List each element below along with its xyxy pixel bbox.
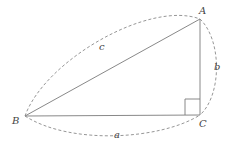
- side-a-line: [25, 115, 200, 116]
- side-label-c: c: [99, 41, 105, 52]
- vertex-label-b: B: [11, 115, 19, 126]
- right-angle-marker: [185, 99, 200, 115]
- triangle-diagram: A B C c b a: [0, 0, 232, 146]
- vertex-label-c: C: [199, 118, 207, 129]
- arc-a: [25, 115, 200, 136]
- side-label-a: a: [114, 129, 120, 140]
- side-label-b: b: [214, 61, 220, 72]
- vertex-label-a: A: [198, 5, 206, 16]
- arc-c: [25, 15, 200, 116]
- side-c-line: [25, 19, 200, 116]
